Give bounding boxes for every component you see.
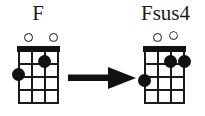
finger-dot	[12, 68, 25, 81]
finger-dot	[38, 55, 51, 68]
open-string-marker	[169, 31, 178, 42]
open-string-marker	[153, 33, 162, 42]
chord-label-f: F	[0, 3, 76, 24]
fretboard-f	[18, 46, 59, 104]
chord-label-fsus4: Fsus4	[126, 3, 205, 24]
chord-diagram-fsus4	[144, 30, 185, 104]
chord-diagram-f	[18, 30, 59, 104]
finger-dot	[138, 74, 151, 87]
open-string-marker	[24, 33, 33, 42]
fret-line	[144, 102, 185, 104]
fret-line	[144, 89, 185, 91]
finger-dot	[164, 55, 177, 68]
open-string-markers-fsus4	[144, 30, 185, 46]
transition-arrow-icon	[68, 67, 136, 89]
open-string-markers-f	[18, 30, 59, 46]
fretboard-fsus4	[144, 46, 185, 104]
fret-line	[18, 89, 59, 91]
fret-line	[18, 102, 59, 104]
finger-dot	[178, 55, 191, 68]
chord-chart: F Fsus4	[0, 0, 205, 116]
open-string-marker	[49, 33, 58, 42]
